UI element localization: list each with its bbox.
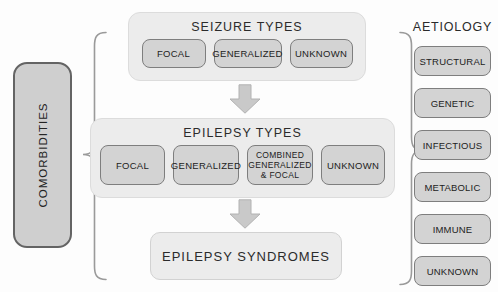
seizure-types-title: SEIZURE TYPES — [129, 20, 365, 34]
aetiology-unknown: UNKNOWN — [414, 256, 491, 286]
epilepsy-types-title: EPILEPSY TYPES — [91, 126, 394, 140]
comorbidities-box: COMORBIDITIES — [13, 62, 72, 248]
comorbidities-label: COMORBIDITIES — [37, 102, 49, 207]
aetiology-infectious: INFECTIOUS — [414, 130, 491, 160]
seizure-type-focal: FOCAL — [142, 39, 206, 68]
seizure-type-unknown: UNKNOWN — [290, 39, 353, 68]
epilepsy-types-row: FOCAL GENERALIZED COMBINED GENERALIZED &… — [91, 145, 394, 185]
aetiology-structural: STRUCTURAL — [414, 46, 491, 76]
seizure-types-row: FOCAL GENERALIZED UNKNOWN — [129, 39, 365, 68]
aetiology-immune: IMMUNE — [414, 214, 491, 244]
down-arrow-epilepsy-to-syndromes — [225, 199, 265, 229]
down-arrow-seizure-to-epilepsy — [225, 84, 265, 114]
epilepsy-type-combined-generalized-focal: COMBINED GENERALIZED & FOCAL — [247, 145, 313, 185]
seizure-type-generalized: GENERALIZED — [214, 39, 282, 68]
epilepsy-classification-diagram: COMORBIDITIES SEIZURE TYPES FOCAL GENERA… — [0, 0, 498, 292]
aetiology-genetic: GENETIC — [414, 88, 491, 118]
epilepsy-syndromes-box: EPILEPSY SYNDROMES — [150, 232, 342, 280]
epilepsy-type-unknown: UNKNOWN — [321, 145, 385, 185]
aetiology-column: AETIOLOGY STRUCTURAL GENETIC INFECTIOUS … — [414, 20, 491, 286]
aetiology-metabolic: METABOLIC — [414, 172, 491, 202]
epilepsy-types-container: EPILEPSY TYPES FOCAL GENERALIZED COMBINE… — [90, 118, 395, 198]
aetiology-title: AETIOLOGY — [413, 20, 492, 34]
epilepsy-type-generalized: GENERALIZED — [173, 145, 239, 185]
seizure-types-container: SEIZURE TYPES FOCAL GENERALIZED UNKNOWN — [128, 12, 366, 81]
epilepsy-type-focal: FOCAL — [100, 145, 165, 185]
